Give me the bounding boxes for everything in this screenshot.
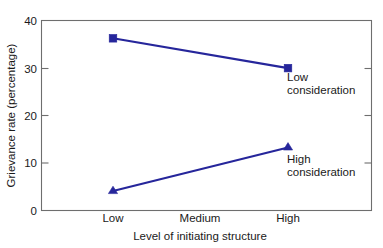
y-tick-label-20: 20 [24,110,37,122]
data-point-high-consideration-high [283,143,292,150]
annotation-high-consideration-line1: High [287,153,311,165]
annotation-low-consideration-line1: Low [287,71,309,83]
chart-container: 40 30 20 10 0 Grievance rate (percentage… [0,0,383,248]
x-tick-label-low: Low [102,212,124,224]
y-tick-label-0: 0 [31,205,37,217]
series-high-consideration-line [113,147,288,191]
y-tick-label-40: 40 [24,15,37,27]
y-tick-label-30: 30 [24,63,37,75]
plot-area-frame [42,21,372,211]
annotation-high-consideration: High consideration [287,153,355,178]
line-chart: 40 30 20 10 0 Grievance rate (percentage… [0,0,383,248]
series-low-consideration [109,35,292,72]
x-tick-label-high: High [276,212,300,224]
x-axis-title: Level of initiating structure [133,230,267,242]
y-axis-title: Grievance rate (percentage) [5,43,17,187]
series-low-consideration-line [113,38,288,68]
series-high-consideration [108,143,292,194]
data-point-low-consideration-low [109,35,117,43]
x-tick-label-medium: Medium [180,212,221,224]
annotation-low-consideration: Low consideration [287,71,355,96]
annotation-low-consideration-line2: consideration [287,84,355,96]
y-axis-ticks [42,69,49,164]
y-tick-label-10: 10 [24,157,37,169]
y-axis-ticks-right [365,69,372,164]
annotation-high-consideration-line2: consideration [287,166,355,178]
